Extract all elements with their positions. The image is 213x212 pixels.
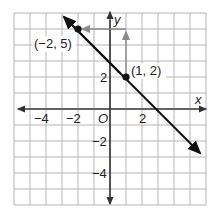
origin-label: O <box>98 111 108 126</box>
x-tick-2: 2 <box>139 111 146 126</box>
point-neg2-5 <box>74 25 81 32</box>
y-tick-neg2: −2 <box>92 134 107 149</box>
x-tick-neg4: −4 <box>34 111 49 126</box>
y-tick-2: 2 <box>100 70 107 85</box>
point-label-neg2-5: (−2, 5) <box>34 36 72 51</box>
y-tick-neg4: −4 <box>92 166 107 181</box>
y-axis-label: y <box>113 12 122 27</box>
point-1-2 <box>122 73 129 80</box>
x-axis-label: x <box>194 92 202 107</box>
point-label-1-2: (1, 2) <box>131 63 161 78</box>
x-tick-neg2: −2 <box>66 111 81 126</box>
coordinate-plane: (−2, 5) (1, 2) x y O −4 −2 2 2 −2 −4 <box>0 0 213 212</box>
